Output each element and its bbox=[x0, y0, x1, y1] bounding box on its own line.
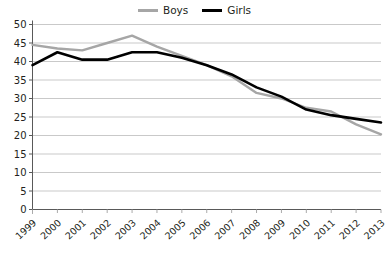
x-tick-label: 2001 bbox=[63, 217, 88, 242]
y-axis bbox=[29, 21, 33, 214]
y-tick-label: 25 bbox=[14, 112, 27, 123]
plot-area: 05101520253035404550 1999200020012002200… bbox=[0, 0, 389, 261]
x-tick-label: 2007 bbox=[212, 217, 237, 242]
x-tick-label: 2004 bbox=[138, 217, 163, 242]
y-tick-label: 50 bbox=[14, 19, 27, 30]
y-tick-label: 0 bbox=[20, 204, 26, 215]
y-tick-label: 40 bbox=[14, 56, 27, 67]
x-tick-label: 2013 bbox=[362, 217, 387, 242]
x-tick-label: 2011 bbox=[312, 217, 337, 242]
data-series bbox=[33, 36, 382, 135]
grid-lines bbox=[33, 25, 382, 210]
y-tick-label: 20 bbox=[14, 130, 27, 141]
y-tick-label: 35 bbox=[14, 75, 27, 86]
x-tick-label: 2006 bbox=[187, 217, 212, 242]
x-axis bbox=[33, 210, 382, 214]
y-tick-label: 15 bbox=[14, 149, 27, 160]
y-tick-label: 10 bbox=[14, 167, 27, 178]
x-tick-label: 2009 bbox=[262, 217, 287, 242]
x-tick-label: 1999 bbox=[13, 217, 38, 242]
x-tick-label: 2005 bbox=[163, 217, 188, 242]
x-tick-label: 2002 bbox=[88, 217, 113, 242]
x-tick-label: 2003 bbox=[113, 217, 138, 242]
x-tick-label: 2012 bbox=[337, 217, 362, 242]
line-chart: Boys Girls 05101520253035404550 19992000… bbox=[0, 0, 389, 261]
series-line-boys bbox=[33, 36, 382, 135]
y-tick-label: 45 bbox=[14, 38, 27, 49]
y-tick-label: 5 bbox=[20, 186, 26, 197]
y-tick-label: 30 bbox=[14, 93, 27, 104]
x-tick-label: 2000 bbox=[38, 217, 63, 242]
y-tick-labels: 05101520253035404550 bbox=[14, 19, 27, 215]
x-tick-label: 2010 bbox=[287, 217, 312, 242]
x-tick-label: 2008 bbox=[237, 217, 262, 242]
x-tick-labels: 1999200020012002200320042005200620072008… bbox=[13, 217, 387, 242]
